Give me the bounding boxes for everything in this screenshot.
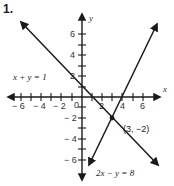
- x-tick-label: − 4: [33, 101, 46, 111]
- x-tick-label: − 6: [12, 101, 25, 111]
- x-axis: x − 6 − 4 − 2 0 2 4 6: [8, 84, 167, 111]
- equation-label-line1: x + y = 1: [12, 72, 47, 82]
- y-tick-label: − 6: [64, 155, 77, 165]
- intersection-label: (3, −2): [123, 124, 149, 134]
- x-tick-label: − 2: [53, 101, 66, 111]
- x-tick-label: 6: [140, 101, 145, 111]
- y-tick-label: − 2: [64, 113, 77, 123]
- origin-label: 0: [74, 100, 79, 110]
- intersection-point: [110, 116, 115, 121]
- x-axis-label: x: [162, 84, 167, 94]
- y-tick-label: 6: [70, 29, 75, 39]
- line-2x-minus-y-equals-8: [89, 24, 157, 165]
- equation-label-line2: 2x − y = 8: [96, 168, 135, 178]
- y-axis-label: y: [88, 13, 93, 23]
- coordinate-graph: x − 6 − 4 − 2 0 2 4 6 y 6 4 2 − 2 − 4: [0, 0, 174, 186]
- x-tick-label: 4: [120, 101, 125, 111]
- y-tick-label: 4: [70, 50, 75, 60]
- y-tick-label: − 4: [64, 134, 77, 144]
